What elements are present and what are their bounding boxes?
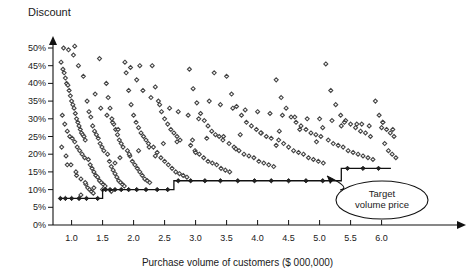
- step-line-marker: [119, 187, 123, 191]
- scatter-points-group: [59, 44, 398, 197]
- scatter-point: [75, 173, 79, 177]
- scatter-point: [197, 117, 201, 121]
- scatter-point: [228, 170, 232, 174]
- scatter-point: [199, 111, 203, 115]
- target-volume-price-label: Target volume price: [332, 188, 432, 210]
- scatter-point: [124, 71, 128, 75]
- step-line-marker: [218, 179, 222, 183]
- step-line-marker: [58, 196, 62, 200]
- scatter-point: [93, 92, 97, 96]
- scatter-point: [76, 64, 80, 68]
- scatter-point: [147, 145, 151, 149]
- scatter-point: [91, 124, 95, 128]
- scatter-point: [67, 88, 71, 92]
- scatter-point: [264, 135, 268, 139]
- scatter-point: [304, 127, 308, 131]
- scatter-point: [305, 117, 309, 121]
- scatter-point: [367, 124, 371, 128]
- scatter-point: [391, 127, 395, 131]
- y-axis-tick-label: 10%: [10, 185, 46, 195]
- scatter-point: [280, 113, 284, 117]
- scatter-point: [294, 120, 298, 124]
- scatter-point: [366, 156, 370, 160]
- step-line-marker: [63, 196, 67, 200]
- y-axis-tick-label: 30%: [10, 114, 46, 124]
- scatter-point: [223, 168, 227, 172]
- scatter-point: [351, 150, 355, 154]
- x-axis-tick-label: 6.0: [364, 233, 400, 243]
- scatter-point: [297, 150, 301, 154]
- step-line-marker: [376, 166, 380, 170]
- scatter-point: [239, 113, 243, 117]
- scatter-point: [140, 173, 144, 177]
- scatter-point: [244, 120, 248, 124]
- scatter-point: [159, 156, 163, 160]
- scatter-point: [191, 87, 195, 91]
- scatter-point: [287, 145, 291, 149]
- step-line-marker: [321, 179, 325, 183]
- scatter-point: [150, 64, 154, 68]
- step-line-marker: [203, 179, 207, 183]
- y-axis-tick-label: 50%: [10, 43, 46, 53]
- scatter-point: [138, 64, 142, 68]
- scatter-point: [292, 149, 296, 153]
- step-line-marker: [361, 166, 365, 170]
- scatter-point: [67, 48, 71, 52]
- scatter-point: [315, 140, 319, 144]
- scatter-point: [306, 156, 310, 160]
- scatter-point: [301, 152, 305, 156]
- scatter-point: [205, 136, 209, 140]
- step-line-marker: [188, 179, 192, 183]
- scatter-point: [134, 120, 138, 124]
- scatter-point: [373, 99, 377, 103]
- scatter-point: [161, 142, 165, 146]
- scatter-point: [65, 163, 69, 167]
- scatter-point: [249, 124, 253, 128]
- scatter-point: [107, 159, 111, 163]
- scatter-point: [386, 149, 390, 153]
- scatter-point: [106, 96, 110, 100]
- scatter-point: [78, 149, 82, 153]
- scatter-point: [104, 81, 108, 85]
- scatter-point: [108, 106, 112, 110]
- scatter-point: [254, 127, 258, 131]
- scatter-point: [331, 142, 335, 146]
- scatter-point: [118, 156, 122, 160]
- step-line-marker: [95, 196, 99, 200]
- scatter-point: [269, 136, 273, 140]
- scatter-point: [282, 142, 286, 146]
- scatter-point: [130, 159, 134, 163]
- scatter-point: [225, 74, 229, 78]
- scatter-point: [206, 159, 210, 163]
- step-line-marker: [69, 196, 73, 200]
- scatter-point: [311, 158, 315, 162]
- scatter-point: [274, 143, 278, 147]
- y-axis-tick-label: 40%: [10, 78, 46, 88]
- scatter-point: [321, 126, 325, 130]
- scatter-point: [144, 138, 148, 142]
- scatter-point: [129, 103, 133, 107]
- y-axis-tick-label: 35%: [10, 96, 46, 106]
- scatter-point: [89, 115, 93, 119]
- y-axis-tick-label: 25%: [10, 132, 46, 142]
- scatter-point: [62, 46, 66, 50]
- step-line-marker: [176, 179, 180, 183]
- scatter-point: [227, 142, 231, 146]
- scatter-point: [59, 60, 63, 64]
- scatter-point: [385, 127, 389, 131]
- step-line-marker: [345, 166, 349, 170]
- scatter-point: [105, 113, 109, 117]
- scatter-point: [160, 110, 164, 114]
- callout-line-1: Target: [332, 188, 432, 199]
- scatter-point: [319, 135, 323, 139]
- scatter-point: [206, 124, 210, 128]
- scatter-point: [252, 156, 256, 160]
- scatter-point: [277, 129, 281, 133]
- scatter-point: [63, 76, 67, 80]
- scatter-point: [63, 122, 67, 126]
- scatter-point: [339, 124, 343, 128]
- scatter-point: [394, 156, 398, 160]
- scatter-point: [210, 129, 214, 133]
- scatter-point: [79, 177, 83, 181]
- scatter-point: [80, 152, 84, 156]
